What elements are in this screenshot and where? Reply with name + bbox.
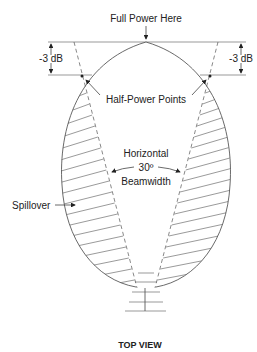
hatch-line xyxy=(40,258,129,276)
hatch-line xyxy=(166,229,252,247)
hatch-line xyxy=(203,86,252,104)
top-view-title: TOP VIEW xyxy=(118,340,162,350)
hatch-line xyxy=(40,181,109,199)
hatch-line xyxy=(191,130,252,148)
hatch-line xyxy=(40,214,118,232)
half-power-point-right xyxy=(209,75,212,78)
hatch-line xyxy=(160,251,252,269)
hatch-line xyxy=(172,207,252,225)
hatch-line xyxy=(200,97,252,115)
hatch-line xyxy=(163,240,252,258)
minus-3db-label-left: -3 dB xyxy=(39,53,63,64)
hatch-line xyxy=(40,104,89,122)
hatch-line xyxy=(177,185,252,203)
hatch-line xyxy=(40,137,98,155)
hatch-line xyxy=(40,225,120,243)
hatch-line xyxy=(40,247,126,265)
hatch-line xyxy=(186,152,252,170)
hatch-line xyxy=(205,75,252,93)
hatch-line xyxy=(40,203,115,221)
hatch-line xyxy=(40,236,123,254)
hatch-line xyxy=(169,218,252,236)
half-power-points-label: Half-Power Points xyxy=(106,94,186,105)
hatch-line xyxy=(40,170,106,188)
hatch-line xyxy=(180,174,252,192)
hatch-line xyxy=(158,262,252,280)
beamwidth-label-line2: 30º xyxy=(139,162,154,173)
full-power-label: Full Power Here xyxy=(110,13,182,24)
hatch-line xyxy=(40,82,84,100)
hatch-line xyxy=(40,269,132,287)
hatch-line xyxy=(40,148,101,166)
half-power-point-left xyxy=(81,75,84,78)
beamwidth-label-line3: Beamwidth xyxy=(121,176,170,187)
hatch-line xyxy=(174,196,252,214)
hatch-line xyxy=(40,126,95,144)
beamwidth-label-line1: Horizontal xyxy=(123,148,168,159)
hatch-line xyxy=(183,163,252,181)
minus-3db-label-right: -3 dB xyxy=(229,53,253,64)
hatch-line xyxy=(189,141,252,159)
spillover-label: Spillover xyxy=(12,200,51,211)
hatch-line xyxy=(40,159,103,177)
antenna-pattern-diagram: Full Power Here -3 dB -3 dB Half-Power P… xyxy=(0,0,257,352)
hatch-line xyxy=(197,108,252,126)
hatch-line xyxy=(208,64,252,82)
hatch-line xyxy=(40,192,112,210)
